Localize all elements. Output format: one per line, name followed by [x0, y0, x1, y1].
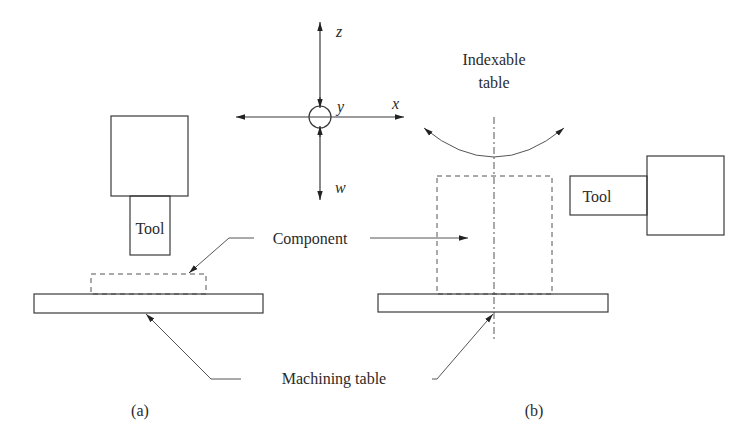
tool-b-label: Tool [582, 188, 612, 205]
component-label: Component [273, 230, 348, 248]
caption-a: (a) [131, 402, 149, 420]
panel-a: Tool (a) [34, 116, 263, 420]
component-a-dashed [91, 274, 206, 294]
machining-diagram: z y x w Tool (a) Indexable table Tool (b… [0, 0, 753, 448]
caption-b: (b) [525, 402, 544, 420]
machining-table-a [34, 294, 263, 313]
coordinate-axes: z y x w [236, 22, 404, 200]
component-callout: Component [189, 230, 468, 273]
machining-table-leader-left [146, 314, 241, 379]
spindle-head-b [647, 156, 724, 235]
w-axis-label: w [335, 179, 346, 196]
component-leader-left [189, 238, 254, 273]
indexable-label-line2: table [478, 74, 509, 91]
z-axis-label: z [335, 23, 343, 40]
y-axis-label: y [335, 98, 345, 116]
machining-table-label: Machining table [282, 370, 386, 388]
machining-table-b [378, 294, 608, 312]
panel-b: Indexable table Tool (b) [378, 51, 724, 420]
machining-table-leader-right [432, 314, 493, 379]
machining-table-callout: Machining table [146, 314, 493, 388]
tool-a-label: Tool [135, 220, 165, 237]
x-axis-label: x [391, 95, 399, 112]
indexable-label-line1: Indexable [462, 51, 525, 68]
spindle-head-a [111, 116, 188, 196]
